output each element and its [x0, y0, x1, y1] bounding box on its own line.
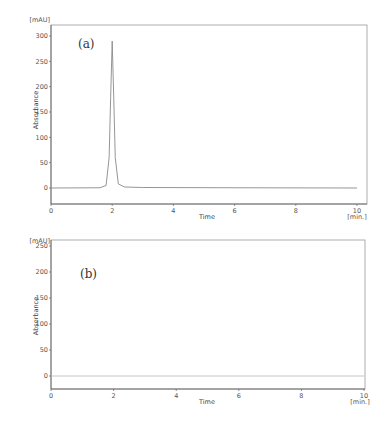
y-tick-label: 0 [44, 372, 48, 380]
plot-frame [51, 25, 367, 204]
panel-label: (b) [80, 267, 97, 281]
chromatogram-figure: 0501001502002503000246810[mAU][min.]Time… [0, 0, 391, 428]
y-axis-title: Absorbance [32, 91, 40, 129]
y-tick-label: 50 [40, 159, 48, 167]
y-tick-label: 200 [36, 268, 48, 276]
x-tick-label: 4 [174, 392, 178, 400]
x-tick-label: 0 [49, 392, 53, 400]
x-tick-label: 2 [112, 392, 116, 400]
y-tick-label: 0 [44, 184, 48, 192]
plot-frame [51, 240, 365, 389]
x-tick-label: 4 [171, 207, 175, 215]
y-unit-label: [mAU] [29, 16, 50, 24]
y-axis-title: Absorbance [32, 297, 40, 335]
x-unit-label: [min.] [347, 213, 366, 221]
x-axis-title: Time [198, 398, 215, 406]
chart-panel-a: 0501001502002503000246810[mAU][min.]Time… [29, 16, 367, 221]
x-tick-label: 8 [299, 392, 303, 400]
x-tick-label: 6 [233, 207, 237, 215]
x-tick-label: 2 [110, 207, 114, 215]
y-tick-label: 200 [36, 83, 48, 91]
panel-label: (a) [78, 37, 95, 51]
series-line [51, 41, 357, 188]
x-tick-label: 8 [294, 207, 298, 215]
x-axis-title: Time [198, 213, 215, 221]
x-tick-label: 6 [237, 392, 241, 400]
y-tick-label: 100 [36, 134, 48, 142]
y-tick-label: 250 [36, 58, 48, 66]
y-tick-label: 300 [36, 32, 48, 40]
y-tick-label: 50 [40, 346, 48, 354]
x-tick-label: 0 [49, 207, 53, 215]
chart-panel-b: 0501001502002500246810[mAU][min.]TimeAbs… [29, 237, 369, 406]
y-unit-label: [mAU] [29, 237, 50, 245]
x-unit-label: [min.] [350, 398, 369, 406]
